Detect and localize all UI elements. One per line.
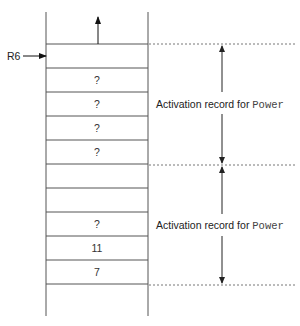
activation-record-label: Activation record for Power (156, 219, 284, 232)
activation-record-bracket-1: Activation record for Power (156, 46, 284, 163)
activation-record-bracket-2: Activation record for Power (156, 167, 284, 283)
stack-diagram: R6 ? ? ? ? ? 11 7 Activation record for … (0, 0, 300, 326)
function-name-code: Power (252, 99, 284, 111)
stack-cell: 7 (94, 266, 100, 278)
stack-cell: ? (94, 122, 100, 134)
function-name-code: Power (252, 220, 284, 232)
activation-record-label: Activation record for Power (156, 98, 284, 111)
stack-pointer-label: R6 (7, 50, 21, 62)
stack-cell: ? (94, 74, 100, 86)
stack-cell: ? (94, 218, 100, 230)
stack-cells: ? ? ? ? ? 11 7 (92, 74, 103, 278)
stack-cell: ? (94, 98, 100, 110)
stack-cell: ? (94, 146, 100, 158)
stack-cell: 11 (92, 242, 103, 254)
